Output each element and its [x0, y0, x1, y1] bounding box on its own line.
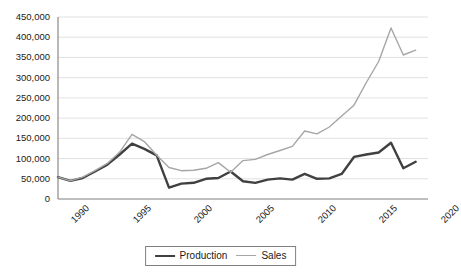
y-tick-label: 200,000 [0, 113, 50, 123]
series-line-production [58, 143, 416, 188]
y-tick-label: 0 [0, 194, 50, 204]
y-tick-label: 300,000 [0, 73, 50, 83]
y-tick-label: 400,000 [0, 32, 50, 42]
y-tick-label: 50,000 [0, 174, 50, 184]
legend-label-production: Production [180, 250, 228, 261]
y-tick-label: 100,000 [0, 154, 50, 164]
legend-swatch-sales [236, 255, 256, 256]
legend-item-sales: Sales [236, 250, 286, 261]
y-tick-label: 150,000 [0, 133, 50, 143]
y-tick-label: 250,000 [0, 93, 50, 103]
legend-item-production: Production [155, 250, 228, 261]
y-tick-label: 450,000 [0, 12, 50, 22]
x-tick-label: 2020 [439, 203, 461, 225]
chart-legend: Production Sales [145, 246, 297, 266]
legend-label-sales: Sales [261, 250, 286, 261]
series-line-sales [58, 28, 416, 181]
legend-swatch-production [155, 255, 175, 257]
y-tick-label: 350,000 [0, 52, 50, 62]
